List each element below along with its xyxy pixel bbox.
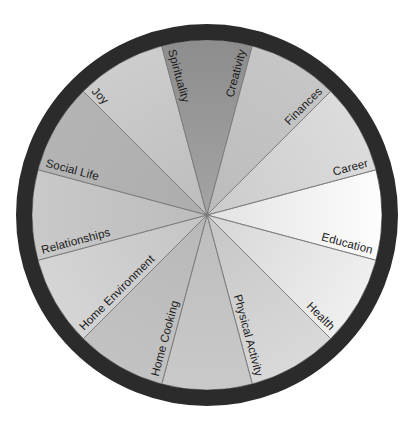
wheel-of-life-diagram: CareerEducationHealthPhysical ActivityHo… xyxy=(0,0,415,425)
wheel-sectors: CareerEducationHealthPhysical ActivityHo… xyxy=(32,40,382,390)
wheel-canvas: CareerEducationHealthPhysical ActivityHo… xyxy=(0,0,415,425)
